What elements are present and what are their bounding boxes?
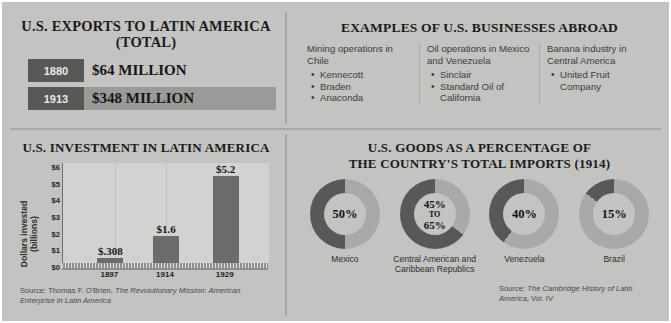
businesses-list-banana: United Fruit Company — [547, 69, 652, 92]
axis-tick — [107, 263, 108, 268]
axis-tick — [116, 263, 117, 268]
y-tick-label: $2 — [38, 229, 60, 238]
axis-tick — [143, 263, 144, 268]
axis-tick — [248, 263, 249, 268]
axis-tick — [122, 263, 123, 268]
axis-tick — [101, 263, 102, 268]
bar-value-label: $.308 — [80, 245, 140, 257]
donut-hole: 50% — [324, 193, 366, 235]
axis-tick — [137, 263, 138, 268]
donut-item: 45%TO65%Central American and Caribbean R… — [393, 179, 477, 274]
donut-caption: Central American and Caribbean Republics — [393, 254, 477, 274]
exports-year-1913: 1913 — [28, 87, 84, 110]
donut-percent: 40% — [512, 208, 537, 220]
businesses-column-oil: Oil operations in Mexico and Venezuela S… — [419, 43, 539, 104]
list-item: United Fruit Company — [551, 69, 652, 92]
axis-tick — [149, 263, 150, 268]
infographic-poster: U.S. EXPORTS TO LATIN AMERICA (TOTAL) 18… — [0, 0, 671, 323]
axis-tick — [197, 263, 198, 268]
axis-tick — [110, 263, 111, 268]
list-item: Anaconda — [311, 92, 412, 104]
axis-tick — [188, 263, 189, 268]
businesses-heading-banana: Banana industry in Central America — [547, 43, 652, 66]
x-tick-label: 1929 — [200, 270, 250, 279]
donut-hole: 40% — [503, 193, 545, 235]
exports-year-1880: 1880 — [28, 59, 84, 82]
businesses-panel: EXAMPLES OF U.S. BUSINESSES ABROAD Minin… — [294, 10, 665, 124]
donut-hole: 15% — [593, 193, 635, 235]
axis-tick — [98, 263, 99, 268]
axis-tick — [131, 263, 132, 268]
y-tick-label: $5 — [38, 179, 60, 188]
donut-item: 15%Brazil — [572, 179, 656, 274]
investment-chart: Dollars invested (billions) $0$1$2$3$4$5… — [10, 159, 282, 277]
imports-title-line2: THE COUNTRY'S TOTAL IMPORTS (1914) — [294, 156, 665, 172]
y-tick-label: $4 — [38, 196, 60, 205]
axis-tick — [173, 263, 174, 268]
exports-value-1880: $64 MILLION — [92, 59, 187, 82]
axis-tick — [119, 263, 120, 268]
y-tick-label: $1 — [38, 246, 60, 255]
axis-tick — [209, 263, 210, 268]
bar — [153, 236, 179, 263]
businesses-list-oil: Sinclair Standard Oil of California — [427, 69, 532, 104]
imports-source-prefix: Source: — [499, 284, 527, 293]
donut-chart: 45%TO65% — [400, 179, 470, 249]
axis-tick — [164, 263, 165, 268]
axis-tick — [221, 263, 222, 268]
axis-tick — [170, 263, 171, 268]
imports-title-line1: U.S. GOODS AS A PERCENTAGE OF — [294, 140, 665, 156]
donut-percent-upper: 65% — [424, 219, 446, 231]
imports-source-tail: , Vol. IV — [527, 294, 553, 303]
axis-tick — [104, 263, 105, 268]
axis-tick — [185, 263, 186, 268]
axis-tick — [245, 263, 246, 268]
investment-y-axis-label: Dollars invested (billions) — [20, 197, 34, 271]
investment-x-axis — [62, 263, 268, 270]
donut-chart: 15% — [579, 179, 649, 249]
donut-chart: 40% — [489, 179, 559, 249]
axis-tick — [263, 263, 264, 268]
donut-chart: 50% — [310, 179, 380, 249]
donut-item: 50%Mexico — [303, 179, 387, 274]
axis-tick — [206, 263, 207, 268]
x-tick-label: 1897 — [84, 270, 134, 279]
horizontal-divider — [10, 128, 661, 130]
axis-tick — [86, 263, 87, 268]
businesses-heading-oil: Oil operations in Mexico and Venezuela — [427, 43, 532, 66]
businesses-heading-mining: Mining operations in Chile — [307, 43, 412, 66]
axis-tick — [134, 263, 135, 268]
list-item: Standard Oil of California — [431, 81, 532, 104]
investment-x-axis-labels: 189719141929 — [62, 270, 268, 281]
exports-panel: U.S. EXPORTS TO LATIN AMERICA (TOTAL) 18… — [10, 10, 282, 124]
axis-tick — [65, 263, 66, 268]
axis-tick — [62, 263, 63, 268]
axis-tick — [218, 263, 219, 268]
businesses-column-mining: Mining operations in Chile Kennecott Bra… — [300, 43, 419, 104]
donut-percent: 45% — [424, 198, 446, 210]
axis-tick — [152, 263, 153, 268]
axis-tick — [224, 263, 225, 268]
axis-tick — [125, 263, 126, 268]
businesses-column-banana: Banana industry in Central America Unite… — [539, 43, 659, 104]
axis-tick — [194, 263, 195, 268]
y-tick-label: $3 — [38, 213, 60, 222]
investment-y-axis-ticks: $0$1$2$3$4$5$6 — [38, 163, 60, 263]
list-item: Sinclair — [431, 69, 532, 81]
vertical-divider-top — [285, 12, 287, 124]
axis-tick — [203, 263, 204, 268]
axis-tick — [233, 263, 234, 268]
axis-tick — [95, 263, 96, 268]
exports-value-1913: $348 MILLION — [92, 87, 194, 110]
axis-tick — [260, 263, 261, 268]
donut-caption: Venezuela — [482, 254, 566, 264]
businesses-list-mining: Kennecott Braden Anaconda — [307, 69, 412, 104]
exports-row-1913: 1913 $348 MILLION — [10, 87, 282, 110]
axis-tick — [158, 263, 159, 268]
imports-panel: U.S. GOODS AS A PERCENTAGE OF THE COUNTR… — [294, 134, 665, 316]
imports-source: Source: The Cambridge History of Latin A… — [499, 284, 659, 303]
donut-range-connector: TO — [429, 210, 440, 219]
list-item: Braden — [311, 81, 412, 93]
donut-caption: Brazil — [572, 254, 656, 264]
axis-tick — [251, 263, 252, 268]
